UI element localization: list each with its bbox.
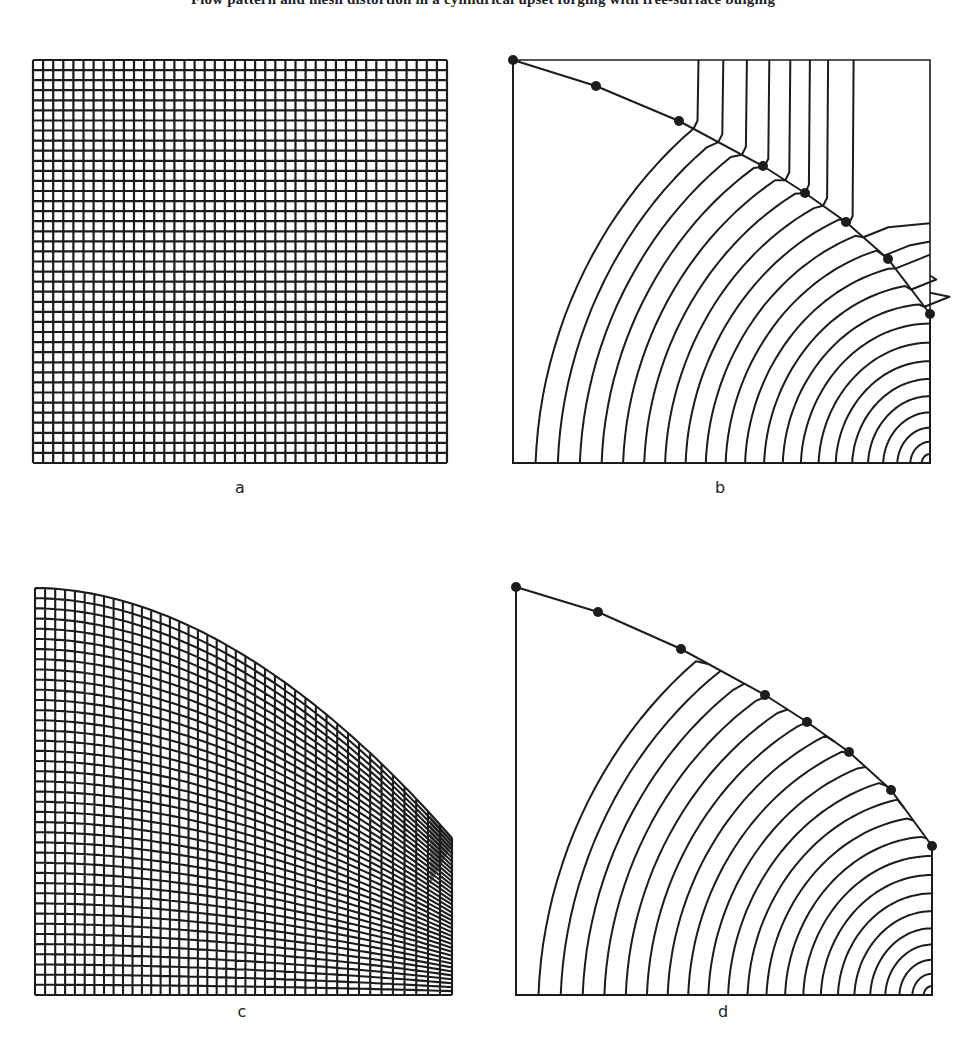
panel-label-c: c xyxy=(222,1002,262,1021)
figure-canvas xyxy=(0,0,966,1042)
panel-b-flowlines xyxy=(508,55,950,463)
panel-d-flowlines xyxy=(511,582,937,995)
panel-c-deformed-grid xyxy=(35,588,452,995)
panel-label-a: a xyxy=(220,478,260,497)
panel-label-b: b xyxy=(700,478,740,497)
panel-label-d: d xyxy=(703,1002,743,1021)
panel-a-grid xyxy=(33,60,447,463)
